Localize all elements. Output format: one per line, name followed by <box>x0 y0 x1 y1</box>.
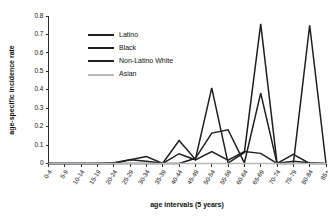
x-tick-label: 65-69 <box>251 168 266 186</box>
chart-legend: LatinoBlackNon-Latino WhiteAsian <box>88 31 173 78</box>
line-chart: 00.10.20.30.40.50.60.70.8 0-45-910-1415-… <box>0 0 334 219</box>
x-tick-label: 80-84 <box>300 168 315 186</box>
legend-label: Non-Latino White <box>119 57 173 64</box>
legend-label: Latino <box>119 31 138 38</box>
series-line <box>49 24 327 164</box>
legend-label: Black <box>119 44 137 51</box>
x-tick-label: 55-59 <box>218 168 233 186</box>
y-tick-label: 0.7 <box>34 30 43 37</box>
y-tick-label: 0.3 <box>34 104 43 111</box>
y-tick-label: 0.8 <box>34 12 43 19</box>
x-tick-label: 60-64 <box>234 168 249 186</box>
data-series-group <box>49 24 327 164</box>
chart-container: 00.10.20.30.40.50.60.70.8 0-45-910-1415-… <box>0 0 334 219</box>
y-axis-ticks: 00.10.20.30.40.50.60.70.8 <box>34 12 48 167</box>
x-tick-label: 5-9 <box>58 168 69 180</box>
x-tick-label: 35-39 <box>153 168 168 186</box>
x-tick-label: 15-19 <box>87 168 102 186</box>
x-tick-label: 30-34 <box>136 168 151 186</box>
y-axis-title: age-specific incidence rate <box>8 45 16 135</box>
legend-label: Asian <box>119 70 137 77</box>
x-tick-label: 10-14 <box>71 168 86 186</box>
y-tick-label: 0.4 <box>34 85 43 92</box>
series-line <box>49 25 327 163</box>
y-tick-label: 0.6 <box>34 49 43 56</box>
x-tick-label: 0-4 <box>42 168 53 180</box>
x-tick-label: 25-29 <box>120 168 135 186</box>
x-tick-label: 50-54 <box>202 168 217 186</box>
y-tick-label: 0.5 <box>34 67 43 74</box>
y-tick-label: 0.1 <box>34 141 43 148</box>
x-axis-ticks: 0-45-910-1415-1920-2425-2930-3435-3940-4… <box>42 164 330 186</box>
x-tick-label: 40-44 <box>169 168 184 186</box>
x-tick-label: 85+ <box>319 168 331 181</box>
x-tick-label: 45-49 <box>185 168 200 186</box>
x-tick-label: 70-74 <box>267 168 282 186</box>
x-axis-title: age intervals (5 years) <box>150 201 224 209</box>
y-tick-label: 0.2 <box>34 122 43 129</box>
x-tick-label: 75-79 <box>283 168 298 186</box>
y-tick-label: 0 <box>40 159 44 166</box>
x-tick-label: 20-24 <box>104 168 119 186</box>
